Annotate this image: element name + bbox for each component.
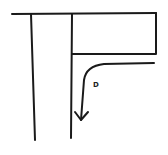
top-road-edge bbox=[12, 13, 156, 14]
movement-label-d: D bbox=[93, 81, 99, 89]
junction-diagram bbox=[0, 0, 168, 155]
side-road-box bbox=[72, 13, 156, 54]
left-road-edge bbox=[31, 14, 35, 140]
turn-arrow bbox=[81, 63, 154, 120]
inner-road-edge bbox=[71, 14, 72, 138]
